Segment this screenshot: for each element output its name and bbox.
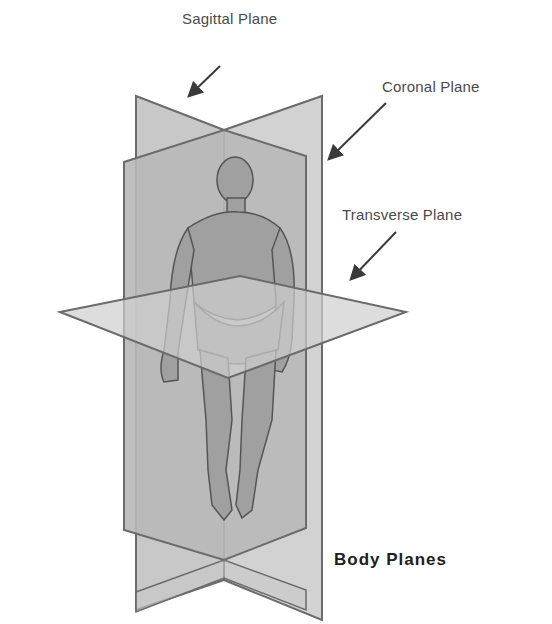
body-planes-diagram: Sagittal Plane Coronal Plane Transverse … xyxy=(0,0,552,624)
transverse-arrow-icon xyxy=(352,232,396,278)
sagittal-plane-label: Sagittal Plane xyxy=(182,10,277,27)
transverse-plane-label: Transverse Plane xyxy=(342,206,462,223)
coronal-arrow-icon xyxy=(330,103,386,158)
sagittal-arrow-icon xyxy=(190,66,220,95)
diagram-caption: Body Planes xyxy=(334,550,447,570)
coronal-plane-label: Coronal Plane xyxy=(382,78,480,95)
transverse-plane xyxy=(60,276,406,378)
